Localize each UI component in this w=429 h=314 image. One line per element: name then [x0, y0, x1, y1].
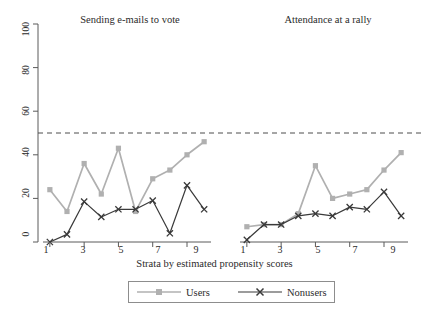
- y-tick-label-60: 60: [21, 100, 31, 122]
- y-tick-label-20: 20: [21, 182, 31, 204]
- series-users-panel-0: [47, 139, 206, 214]
- x-tick-label-right-7: 7: [347, 244, 363, 255]
- x-axis-label: Strata by estimated propensity scores: [0, 258, 429, 269]
- legend-entry-nonusers: Nonusers: [238, 282, 327, 302]
- legend-swatch-users-icon: [137, 285, 181, 299]
- chart-legend: Users Nonusers: [128, 281, 335, 303]
- x-tick-label-left-7: 7: [150, 244, 166, 255]
- x-tick-label-right-1: 1: [235, 244, 251, 255]
- x-tick-label-left-9: 9: [188, 244, 204, 255]
- x-tick-marks: [50, 242, 384, 247]
- legend-swatch-nonusers-icon: [238, 285, 282, 299]
- panel-title-left: Sending e-mails to vote: [60, 14, 200, 25]
- panel-title-right: Attendance at a rally: [258, 14, 398, 25]
- x-tick-label-right-9: 9: [385, 244, 401, 255]
- x-tick-label-left-5: 5: [113, 244, 129, 255]
- legend-label-nonusers: Nonusers: [287, 287, 327, 298]
- y-tick-label-100: 100: [21, 18, 31, 40]
- x-tick-label-left-1: 1: [38, 244, 54, 255]
- series-users-panel-1: [244, 150, 403, 229]
- chart-figure: Electoral civic engagement (%) 0 20 40 6…: [0, 0, 429, 314]
- series-layer: [47, 139, 404, 245]
- y-tick-label-80: 80: [21, 59, 31, 81]
- x-tick-label-right-5: 5: [310, 244, 326, 255]
- series-nonusers-panel-0: [47, 182, 207, 245]
- y-tick-label-0: 0: [21, 223, 31, 245]
- series-nonusers-panel-1: [244, 189, 404, 243]
- y-tick-label-40: 40: [21, 141, 31, 163]
- legend-entry-users: Users: [137, 282, 210, 302]
- x-tick-label-left-3: 3: [75, 244, 91, 255]
- y-axis: [33, 24, 38, 242]
- legend-label-users: Users: [186, 287, 210, 298]
- x-tick-label-right-3: 3: [272, 244, 288, 255]
